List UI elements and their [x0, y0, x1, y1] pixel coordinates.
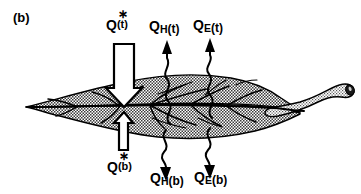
- label-latent-heat-top-symbol: Q: [193, 17, 204, 33]
- figure-panel-b: (b) Q∗(t) QH(t) QE(t) Q∗(b) QH(b) QE(b): [0, 0, 361, 194]
- leaf-energy-balance-diagram: [0, 0, 361, 194]
- label-latent-heat-bottom-subscript: E: [205, 174, 212, 186]
- leaf-blade: [26, 75, 356, 138]
- label-sensible-heat-bottom: QH(b): [150, 170, 184, 188]
- label-sensible-heat-top: QH(t): [149, 18, 179, 36]
- label-latent-heat-bottom-symbol: Q: [194, 169, 205, 185]
- label-sensible-heat-top-suffix: (t): [167, 22, 179, 36]
- label-latent-heat-top: QE(t): [193, 17, 223, 35]
- label-net-radiation-top-symbol: Q: [106, 17, 117, 33]
- label-sensible-heat-top-symbol: Q: [149, 18, 160, 34]
- label-sensible-heat-bottom-symbol: Q: [150, 170, 161, 186]
- label-latent-heat-bottom: QE(b): [194, 169, 227, 187]
- label-latent-heat-top-suffix: (t): [211, 21, 223, 35]
- label-net-radiation-bottom: Q∗(b): [107, 158, 135, 175]
- label-net-radiation-bottom-symbol: Q: [107, 159, 118, 175]
- label-net-radiation-top-subscript: (t): [117, 19, 128, 30]
- label-net-radiation-top: Q∗(t): [106, 16, 134, 33]
- panel-label: (b): [13, 11, 30, 24]
- label-sensible-heat-bottom-suffix: (b): [168, 174, 183, 188]
- label-latent-heat-bottom-suffix: (b): [212, 173, 227, 187]
- label-net-radiation-bottom-subscript: (b): [118, 161, 132, 172]
- label-latent-heat-top-subscript: E: [204, 22, 211, 34]
